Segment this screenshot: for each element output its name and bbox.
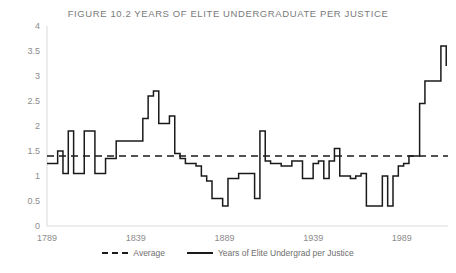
x-tick-label: 1889 <box>214 233 234 243</box>
x-tick-label: 1839 <box>126 233 146 243</box>
x-axis-tick-labels: 17891839188919391989 <box>37 233 412 243</box>
y-tick-label: 1 <box>35 171 40 181</box>
legend-item-elite-undergrad[interactable]: Years of Elite Undergrad per Justice <box>187 248 354 258</box>
y-tick-label: 2 <box>35 121 40 131</box>
chart-legend: Average Years of Elite Undergrad per Jus… <box>0 248 456 258</box>
y-tick-label: 2.5 <box>27 96 40 106</box>
x-tick-label: 1989 <box>392 233 412 243</box>
legend-item-average[interactable]: Average <box>102 248 165 258</box>
x-tick-label: 1939 <box>303 233 323 243</box>
y-axis-tick-labels: 00.511.522.533.54 <box>27 21 40 231</box>
line-chart-plot: 00.511.522.533.54 17891839188919391989 <box>0 0 456 273</box>
y-tick-label: 1.5 <box>27 146 40 156</box>
figure-container: FIGURE 10.2 YEARS OF ELITE UNDERGRADUATE… <box>0 0 456 273</box>
legend-swatch-solid-icon <box>187 252 213 254</box>
elite-undergrad-series-line <box>47 46 446 206</box>
y-tick-label: 3.5 <box>27 46 40 56</box>
y-tick-label: 3 <box>35 71 40 81</box>
y-tick-label: 0.5 <box>27 196 40 206</box>
legend-label-average: Average <box>133 248 165 258</box>
legend-swatch-dashed-icon <box>102 252 128 254</box>
legend-label-elite-undergrad: Years of Elite Undergrad per Justice <box>218 248 354 258</box>
y-tick-label: 4 <box>35 21 40 31</box>
y-tick-label: 0 <box>35 221 40 231</box>
x-tick-label: 1789 <box>37 233 57 243</box>
